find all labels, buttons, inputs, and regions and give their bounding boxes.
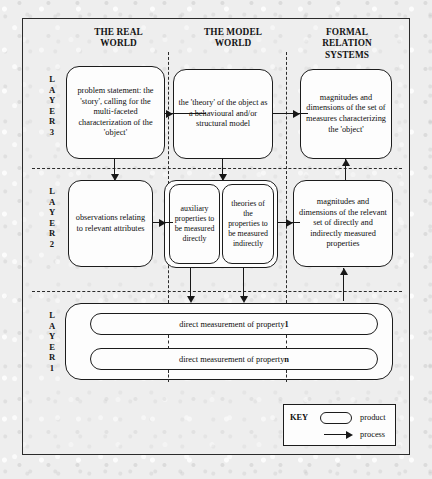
layer-label-3: L A Y E R 3 [44, 74, 60, 138]
pill-label-1-index: 1 [285, 320, 289, 329]
process-arrow-l2-model-to-formal [286, 219, 293, 227]
process-arrow-l2-to-l1-auxiliary [187, 296, 195, 303]
process-arrow-l1-to-l2-formal [340, 268, 348, 275]
column-divider-left-stub-bottom [168, 370, 169, 382]
layer-separator-2-1 [32, 291, 402, 292]
process-arrow-l2-to-l1-theories [240, 296, 248, 303]
column-header-formal-relation-systems: FORMALRELATIONSYSTEMS [297, 27, 397, 61]
process-line-l3-model-to-formal [273, 113, 308, 114]
key-product-label: product [360, 413, 386, 422]
key-process-label: process [360, 430, 385, 439]
key-title: KEY [290, 413, 308, 422]
column-header-real-world: THE REALWORLD [70, 27, 167, 50]
key-process-arrowhead-icon [346, 431, 353, 439]
pill-label-n-prefix: direct measurement of property [179, 355, 284, 364]
diagram-canvas: THE REALWORLD THE MODELWORLD FORMALRELAT… [0, 0, 432, 479]
layer-separator-3-2 [32, 168, 402, 169]
node-layer2-observations: observations relating to relevant attrib… [68, 180, 153, 267]
process-arrow-l3-model-to-formal [293, 110, 300, 118]
node-layer2-magnitudes-dimensions: magnitudes and dimensions of the relevan… [293, 180, 393, 267]
column-divider-left [168, 52, 169, 308]
column-divider-right-stub-l1 [286, 335, 287, 349]
pill-direct-measurement-property-1: direct measurement of property 1 [90, 313, 378, 335]
column-divider-right-stub-bottom [286, 370, 287, 382]
process-arrow-l3-real-to-model [166, 110, 173, 118]
column-divider-right [286, 52, 287, 308]
layer-label-1: L A Y E R 1 [44, 310, 60, 374]
pill-direct-measurement-property-n: direct measurement of property n [90, 348, 378, 370]
node-layer3-magnitudes-dimensions: magnitudes and dimensions of the set of … [300, 69, 392, 159]
layer-label-2: L A Y E R 2 [44, 186, 60, 250]
pill-label-n-index: n [284, 355, 289, 364]
key-process-arrow-icon [324, 434, 346, 435]
column-divider-left-stub-l1 [168, 335, 169, 349]
key-product-shape-icon [320, 412, 352, 424]
node-layer2-theories-of-properties: theories of the properties to be measure… [222, 184, 274, 264]
process-arrow-l2-real-to-model [159, 219, 166, 227]
node-layer3-problem-statement: problem statement: the 'story', calling … [66, 66, 165, 159]
process-arrow-l2-to-l3-formal [342, 159, 350, 166]
column-header-model-world: THE MODELWORLD [180, 27, 286, 50]
pill-label-1-prefix: direct measurement of property [179, 320, 284, 329]
node-layer2-auxiliary-properties: auxiliary properties to be measured dire… [169, 184, 220, 264]
key-legend-box: KEY product process [283, 404, 396, 446]
node-layer3-theory-of-object: the 'theory' of the object as a behaviou… [173, 69, 273, 159]
